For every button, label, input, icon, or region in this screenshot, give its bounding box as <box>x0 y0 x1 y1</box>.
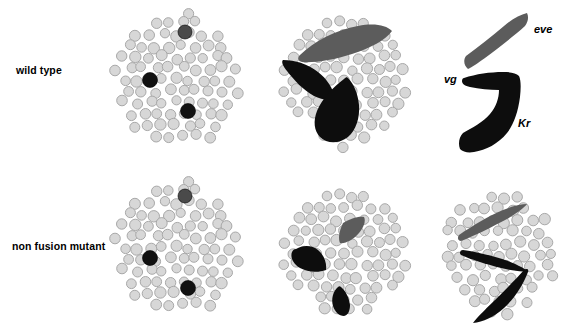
myoblast-cell <box>542 237 553 248</box>
myoblast-cell <box>362 260 372 270</box>
myoblast-cell <box>152 109 162 119</box>
myoblast-cell <box>152 277 162 287</box>
myoblast-cell <box>388 107 398 117</box>
myoblast-cell <box>455 205 466 216</box>
myoblast-cell <box>110 233 121 244</box>
myoblast-cell <box>294 39 305 50</box>
myoblast-cell <box>335 189 345 199</box>
myoblast-cell <box>147 96 157 106</box>
myoblast-cell <box>125 40 135 50</box>
myoblast-cell <box>110 65 121 76</box>
eve-blob-shape <box>339 217 365 243</box>
myoblast-cell <box>380 76 391 87</box>
vg-Kr-domain-shape <box>459 72 521 152</box>
myoblast-cell <box>512 215 523 226</box>
myoblast-cell <box>536 250 546 260</box>
myoblast-cell <box>136 62 146 72</box>
myoblast-cell <box>142 288 152 298</box>
myoblast-cell <box>320 62 330 72</box>
myoblast-cell <box>164 133 174 143</box>
myoblast-cell <box>362 304 372 314</box>
myoblast-cell <box>320 235 330 245</box>
myoblast-cell <box>151 131 162 142</box>
myoblast-cell <box>203 254 213 264</box>
myoblast-cell <box>205 65 216 76</box>
myoblast-cell <box>166 84 177 95</box>
myoblast-cell <box>172 96 181 105</box>
myoblast-cell <box>326 248 336 258</box>
myoblast-cell <box>211 290 221 300</box>
myoblast-cell <box>391 50 401 60</box>
myoblast-cell <box>162 229 173 240</box>
myoblast-cell <box>313 224 324 235</box>
myoblast-cell <box>542 259 553 270</box>
myoblast-cell <box>184 265 194 275</box>
myoblast-cell <box>117 51 127 61</box>
myoblast-cell <box>522 298 532 308</box>
myoblast-cell <box>373 260 384 271</box>
myoblast-cell <box>361 236 372 247</box>
myoblast-cell <box>506 248 517 259</box>
myoblast-cell <box>179 61 189 71</box>
myoblast-cell <box>534 271 543 280</box>
myoblast-cell <box>183 76 192 85</box>
founder-cell <box>143 251 158 266</box>
myoblast-cell <box>391 223 401 233</box>
myoblast-cell <box>230 232 240 242</box>
myoblast-cell <box>205 300 216 311</box>
myoblast-cell <box>366 292 377 303</box>
gene-label-vg: vg <box>444 73 457 85</box>
myoblast-cell <box>364 226 375 237</box>
myoblast-cell <box>140 109 151 120</box>
gene-label-eve: eve <box>534 23 552 35</box>
myoblast-cell <box>528 215 539 226</box>
myoblast-cell <box>190 16 200 26</box>
myoblast-cell <box>461 259 472 270</box>
myoblast-cell <box>470 203 479 212</box>
panel-mutant-cells <box>110 177 244 312</box>
myoblast-cell <box>209 99 219 109</box>
myoblast-cell <box>346 258 357 269</box>
myoblast-cell <box>189 84 199 94</box>
myoblast-cell <box>371 109 382 120</box>
panel-wild-type-isolated-domains <box>459 13 528 152</box>
panel-mutant-domains <box>279 189 411 316</box>
myoblast-cell <box>368 98 379 109</box>
myoblast-cell <box>489 241 498 250</box>
myoblast-cell <box>198 54 207 63</box>
myoblast-cell <box>142 120 152 130</box>
myoblast-cell <box>519 251 530 262</box>
myoblast-cell <box>334 259 345 270</box>
myoblast-cell <box>168 118 179 129</box>
myoblast-cell <box>350 273 361 284</box>
myoblast-cell <box>452 272 462 282</box>
founder-cell <box>181 281 196 296</box>
founder-cell <box>178 25 192 39</box>
myoblast-cell <box>130 290 140 300</box>
myoblast-cell <box>157 99 166 108</box>
myoblast-cell <box>160 197 169 206</box>
myoblast-cell <box>279 238 289 248</box>
myoblast-cell <box>190 65 201 76</box>
myoblast-cell <box>379 223 390 234</box>
myoblast-cell <box>294 212 305 223</box>
myoblast-cell <box>380 97 390 107</box>
myoblast-cell <box>172 264 181 273</box>
myoblast-cell <box>391 248 400 257</box>
myoblast-cell <box>368 271 379 282</box>
myoblast-cell <box>447 261 457 271</box>
myoblast-cell <box>463 218 473 228</box>
myoblast-cell <box>196 31 206 41</box>
myoblast-cell <box>126 279 136 289</box>
myoblast-cell <box>183 244 192 253</box>
myoblast-cell <box>352 246 363 257</box>
myoblast-cell <box>205 233 216 244</box>
myoblast-cell <box>318 211 329 222</box>
myoblast-cell <box>302 97 313 108</box>
myoblast-cell <box>190 211 201 222</box>
myoblast-cell <box>213 31 223 41</box>
myoblast-cell <box>164 301 174 311</box>
myoblast-cell <box>352 200 362 210</box>
myoblast-cell <box>190 43 201 54</box>
myoblast-cell <box>206 109 216 119</box>
